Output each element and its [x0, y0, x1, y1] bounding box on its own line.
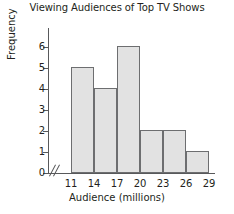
- chart-title: Viewing Audiences of Top TV Shows: [0, 2, 234, 13]
- x-tick-label-20: 20: [128, 178, 152, 189]
- bar-26-29: [186, 151, 209, 173]
- y-tick-label-4: 4: [25, 82, 45, 95]
- y-tick-label-1: 1: [25, 145, 45, 158]
- x-tick-label-14: 14: [82, 178, 106, 189]
- y-axis-line: [48, 28, 49, 174]
- bar-17-20: [117, 46, 140, 173]
- x-tick-label-17: 17: [105, 178, 129, 189]
- histogram-chart: Viewing Audiences of Top TV Shows Freque…: [0, 0, 234, 214]
- bar-11-14: [71, 67, 94, 173]
- y-tick-label-2: 2: [25, 124, 45, 137]
- y-axis-title: Frequency: [6, 8, 17, 60]
- x-axis-title: Audience (millions): [0, 192, 234, 203]
- bar-23-26: [163, 130, 186, 173]
- x-tick-label-23: 23: [151, 178, 175, 189]
- plot-area: 0 1 2 3 4 5 6: [48, 28, 215, 174]
- axis-break-icon: [51, 164, 65, 178]
- y-tick-label-5: 5: [25, 61, 45, 74]
- bar-14-17: [94, 88, 117, 173]
- y-tick-label-3: 3: [25, 103, 45, 116]
- bar-20-23: [140, 130, 163, 173]
- y-tick-label-6: 6: [25, 40, 45, 53]
- x-tick-label-29: 29: [197, 178, 221, 189]
- x-tick-label-11: 11: [59, 178, 83, 189]
- y-tick-label-0: 0: [25, 166, 45, 179]
- x-tick-label-26: 26: [174, 178, 198, 189]
- x-axis-line: [48, 173, 215, 174]
